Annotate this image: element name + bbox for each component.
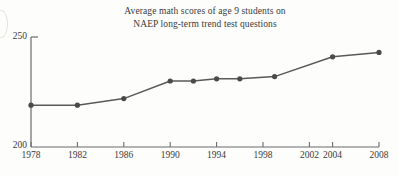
x-tick-label-2008: 2008 <box>363 150 395 160</box>
data-point-1990 <box>168 78 173 83</box>
y-tick-label-200: 200 <box>2 140 27 150</box>
y-tick-label-250: 250 <box>2 31 27 41</box>
x-tick-label-1998: 1998 <box>247 150 279 160</box>
data-point-1996 <box>237 76 242 81</box>
data-point-2008 <box>376 50 381 55</box>
x-tick-label-1986: 1986 <box>108 150 140 160</box>
data-line-series <box>31 52 379 105</box>
x-tick-label-1982: 1982 <box>61 150 93 160</box>
x-tick-marks <box>31 142 379 147</box>
data-point-1978 <box>28 103 33 108</box>
data-point-1986 <box>121 96 126 101</box>
x-tick-label-1990: 1990 <box>154 150 186 160</box>
x-tick-label-2004: 2004 <box>317 150 349 160</box>
data-point-1982 <box>75 103 80 108</box>
data-point-2004 <box>330 54 335 59</box>
chart-figure: Average math scores of age 9 students on… <box>0 0 398 176</box>
data-point-1992 <box>191 78 196 83</box>
data-point-1999 <box>272 74 277 79</box>
x-tick-label-1978: 1978 <box>15 150 47 160</box>
x-tick-label-1994: 1994 <box>201 150 233 160</box>
data-point-1994 <box>214 76 219 81</box>
